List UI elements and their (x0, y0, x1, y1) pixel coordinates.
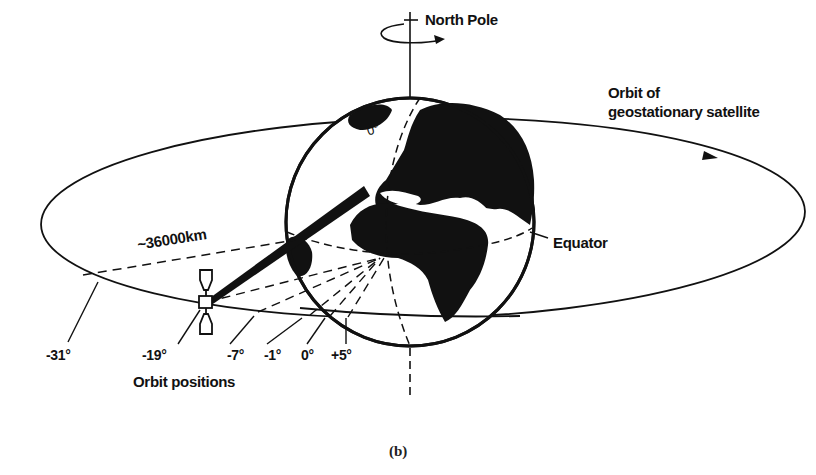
figure-caption: (b) (389, 443, 407, 460)
position-label-minus31: -31° (46, 347, 71, 363)
orbit-direction-arrow-icon (702, 151, 718, 160)
position-label-minus7: -7° (227, 347, 244, 363)
position-label-plus5: +5° (331, 347, 352, 363)
orbit-label-line2: geostationary satellite (608, 103, 760, 120)
equator-label: Equator (553, 234, 608, 251)
satellite-icon (199, 270, 212, 334)
geostationary-orbit-diagram (0, 0, 816, 475)
position-label-minus1: -1° (264, 347, 281, 363)
orbit-label-line1: Orbit of (608, 84, 660, 101)
orbit-positions-label: Orbit positions (133, 373, 235, 390)
position-label-minus19: -19° (142, 347, 167, 363)
north-pole-label: North Pole (425, 11, 498, 28)
position-label-zero: 0° (301, 347, 314, 363)
